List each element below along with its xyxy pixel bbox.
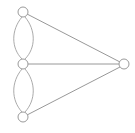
graph-diagram	[0, 0, 135, 133]
node-middle[interactable]	[18, 59, 28, 69]
node-right[interactable]	[119, 59, 129, 69]
edge-group	[14, 14, 120, 115]
edge-top-middle-left	[14, 17, 22, 59]
graph-canvas	[0, 0, 135, 133]
edge-top-middle-right	[25, 17, 33, 59]
edge-middle-bottom-left	[14, 69, 22, 112]
node-group	[18, 7, 129, 122]
edge-top-right	[27, 14, 120, 62]
edge-middle-bottom-right	[25, 69, 33, 112]
node-top[interactable]	[18, 7, 28, 17]
edge-bottom-right	[27, 67, 120, 115]
node-bottom[interactable]	[18, 112, 28, 122]
